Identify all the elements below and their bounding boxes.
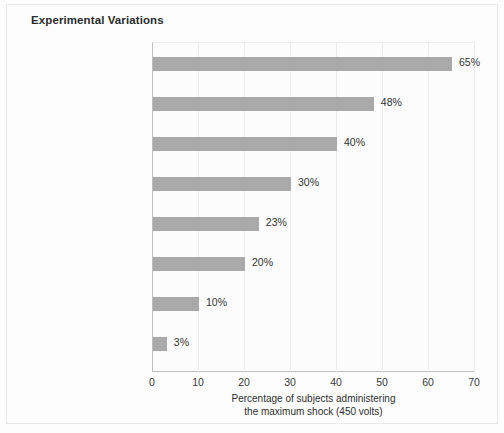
bar <box>153 177 291 191</box>
x-tick-label-70: 70 <box>468 376 480 388</box>
bar <box>153 297 199 311</box>
bar-row: 65%Original study <box>152 45 475 83</box>
bar <box>153 217 259 231</box>
x-tick-label-10: 10 <box>192 376 204 388</box>
bar-value-label: 65% <box>459 56 480 68</box>
bar-row: 30%Teacher required to forcelearner’s ha… <box>152 165 475 203</box>
bar-value-label: 48% <box>381 96 402 108</box>
x-axis-title-line1: Percentage of subjects administering <box>152 393 475 406</box>
bar-row: 3%Teacher free to chooseshock level <box>152 325 475 363</box>
bar-value-label: 40% <box>344 136 365 148</box>
x-axis-title: Percentage of subjects administering the… <box>152 393 475 418</box>
bar-row: 40%Teacher and learner insame room <box>152 125 475 163</box>
plot-area: 65%Original study48%Experiment conducted… <box>152 42 475 372</box>
bar-value-label: 20% <box>252 256 273 268</box>
bar-row: 23%Experimenter leaves lab-oratory and g… <box>152 205 475 243</box>
bar-value-label: 30% <box>298 176 319 188</box>
bar-row: 48%Experiment conducted inoffice buildin… <box>152 85 475 123</box>
x-tick-label-50: 50 <box>376 376 388 388</box>
bar-value-label: 3% <box>174 336 189 348</box>
chart-title: Experimental Variations <box>31 14 164 26</box>
bar-row: 10%Teacher observes twoother teachers re… <box>152 285 475 323</box>
bar <box>153 57 452 71</box>
x-tick-label-20: 20 <box>238 376 250 388</box>
x-tick-label-40: 40 <box>330 376 342 388</box>
x-tick-label-30: 30 <box>284 376 296 388</box>
bar <box>153 257 245 271</box>
bar <box>153 97 374 111</box>
chart-figure: Experimental Variations 65%Original stud… <box>0 0 504 433</box>
bar <box>153 137 337 151</box>
x-tick-label-0: 0 <box>149 376 155 388</box>
bar-value-label: 10% <box>206 296 227 308</box>
bar-value-label: 23% <box>266 216 287 228</box>
bar-row: 20%Experimenter leaves andordinary man g… <box>152 245 475 283</box>
x-tick-label-60: 60 <box>422 376 434 388</box>
bar <box>153 337 167 351</box>
x-axis-title-line2: the maximum shock (450 volts) <box>152 406 475 419</box>
